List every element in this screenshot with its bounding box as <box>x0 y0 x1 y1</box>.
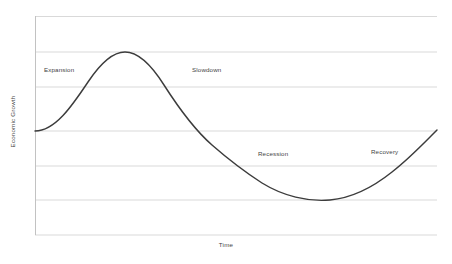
annotation-recovery: Recovery <box>371 148 398 155</box>
gridlines <box>35 17 437 236</box>
business-cycle-curve <box>35 52 437 200</box>
chart-canvas <box>0 0 452 264</box>
x-axis-title: Time <box>0 241 452 248</box>
business-cycle-chart: Expansion Slowdown Recession Recovery Ti… <box>0 0 452 264</box>
annotation-expansion: Expansion <box>44 66 74 73</box>
y-axis-title: Economic Growth <box>9 87 16 157</box>
annotation-slowdown: Slowdown <box>192 66 221 73</box>
annotation-recession: Recession <box>258 150 288 157</box>
